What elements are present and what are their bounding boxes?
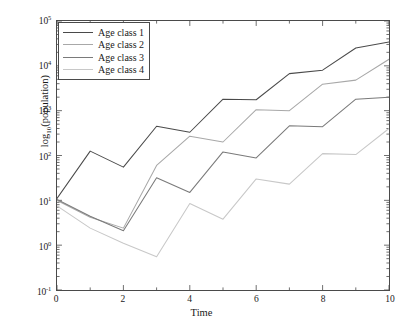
series-line-2: [57, 59, 389, 228]
legend-item: Age class 1: [63, 26, 144, 39]
y-axis-label-base: log: [39, 134, 50, 147]
legend-swatch-line: [63, 69, 93, 70]
legend-item: Age class 4: [63, 64, 144, 77]
x-tick-label: 2: [120, 294, 125, 304]
y-tick-label: 100: [39, 240, 51, 252]
legend-item-label: Age class 2: [98, 39, 144, 50]
legend-swatch-line: [63, 57, 93, 58]
x-tick-label: 4: [187, 294, 192, 304]
y-axis-label-sub: 10: [45, 127, 53, 134]
series-line-3: [57, 97, 389, 231]
chart-legend: Age class 1Age class 2Age class 3Age cla…: [58, 22, 150, 80]
figure: 10-1100101102103104105 log10(population)…: [0, 0, 403, 326]
legend-item-label: Age class 4: [98, 64, 144, 75]
legend-item-label: Age class 3: [98, 52, 144, 63]
legend-swatch-line: [63, 44, 93, 45]
y-axis-label: log10(population): [39, 51, 53, 171]
x-tick-label: 6: [254, 294, 259, 304]
series-line-4: [57, 129, 389, 257]
x-axis-label: Time: [0, 307, 403, 318]
x-tick-label: 8: [321, 294, 326, 304]
legend-item-label: Age class 1: [98, 27, 144, 38]
y-tick-label: 10-1: [37, 285, 51, 297]
y-axis-label-rest: (population): [39, 75, 50, 127]
x-tick-label: 0: [54, 294, 59, 304]
legend-item: Age class 2: [63, 39, 144, 52]
legend-swatch-line: [63, 32, 93, 33]
y-tick-label: 105: [39, 14, 51, 26]
y-tick-label: 101: [39, 195, 51, 207]
x-tick-label: 10: [385, 294, 395, 304]
legend-item: Age class 3: [63, 51, 144, 64]
